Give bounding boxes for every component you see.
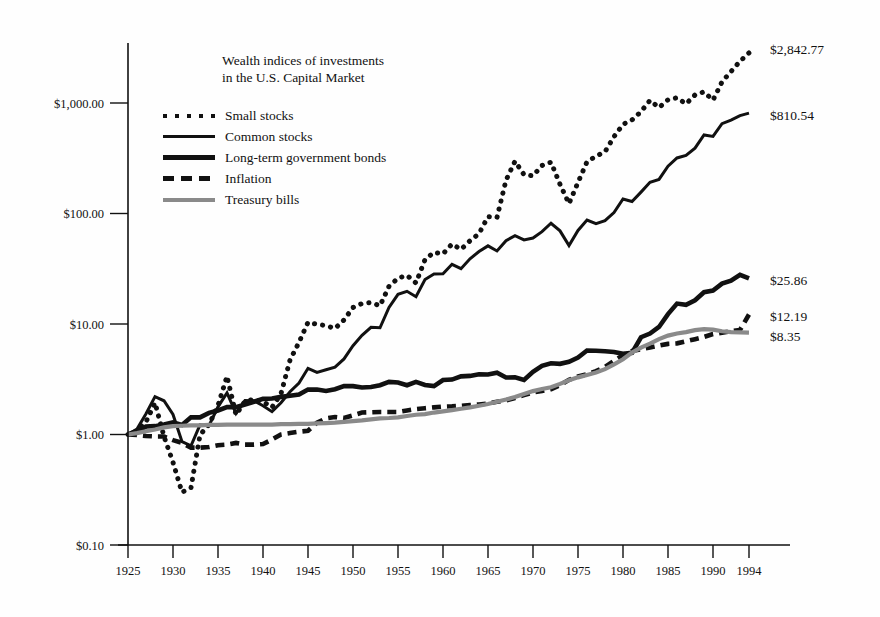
- gray-solid-line-key: [163, 194, 215, 206]
- x-axis-tick-label: 1935: [206, 564, 231, 578]
- y-axis-tick-label: $0.10: [76, 539, 104, 553]
- tick-label-layer: $1,000.00$100.00$10.00$1.00$0.1019251930…: [54, 97, 762, 579]
- x-axis-tick-label: 1985: [656, 564, 681, 578]
- end-value-label: $25.86: [770, 273, 807, 288]
- end-value-label: $12.19: [770, 309, 807, 324]
- y-axis-tick-label: $1,000.00: [54, 97, 104, 111]
- legend-item-treasury-bills[interactable]: Treasury bills: [163, 189, 386, 210]
- legend-label: Long-term government bonds: [225, 150, 386, 166]
- x-axis-tick-label: 1970: [521, 564, 546, 578]
- end-value-label: $2,842.77: [770, 42, 824, 57]
- y-axis-tick-label: $100.00: [63, 207, 104, 221]
- y-axis-tick-label: $1.00: [76, 428, 104, 442]
- end-value-label: $8.35: [770, 329, 801, 344]
- legend-item-inflation[interactable]: Inflation: [163, 168, 386, 189]
- x-axis-tick-label: 1945: [296, 564, 321, 578]
- thick-solid-line-key: [163, 152, 215, 164]
- x-axis-tick-label: 1960: [431, 564, 456, 578]
- end-value-label-layer: $2,842.77$810.54$25.86$12.19$8.35: [770, 42, 824, 344]
- x-axis-tick-label: 1980: [611, 564, 636, 578]
- legend-item-common-stocks[interactable]: Common stocks: [163, 126, 386, 147]
- x-axis-tick-label: 1965: [476, 564, 501, 578]
- x-axis-tick-label: 1975: [566, 564, 591, 578]
- x-axis-tick-label: 1990: [701, 564, 726, 578]
- x-axis-tick-label: 1925: [116, 564, 141, 578]
- legend-title: Wealth indices of investments in the U.S…: [222, 52, 384, 86]
- x-axis-tick-label: 1955: [386, 564, 411, 578]
- legend-label: Common stocks: [225, 129, 312, 145]
- dashed-line-key: [163, 173, 215, 185]
- end-value-label: $810.54: [770, 108, 814, 123]
- legend-item-small-stocks[interactable]: Small stocks: [163, 105, 386, 126]
- x-axis-tick-label: 1950: [341, 564, 366, 578]
- y-axis-tick-label: $10.00: [70, 318, 104, 332]
- legend-title-line-2: in the U.S. Capital Market: [222, 69, 384, 86]
- legend-label: Treasury bills: [225, 192, 299, 208]
- dotted-line-key: [163, 110, 215, 122]
- legend-title-line-1: Wealth indices of investments: [222, 52, 384, 69]
- legend-label: Inflation: [225, 171, 272, 187]
- thin-solid-line-key: [163, 131, 215, 143]
- legend-item-long-term-government-bonds[interactable]: Long-term government bonds: [163, 147, 386, 168]
- chart-plot-area: $1,000.00$100.00$10.00$1.00$0.1019251930…: [0, 0, 880, 617]
- x-axis-tick-label: 1994: [737, 564, 763, 578]
- chart-legend: Small stocks Common stocks Long-term gov…: [163, 105, 386, 210]
- legend-label: Small stocks: [225, 108, 294, 124]
- x-axis-tick-label: 1930: [161, 564, 186, 578]
- chart-figure: $1,000.00$100.00$10.00$1.00$0.1019251930…: [0, 0, 880, 617]
- x-axis-tick-label: 1940: [251, 564, 276, 578]
